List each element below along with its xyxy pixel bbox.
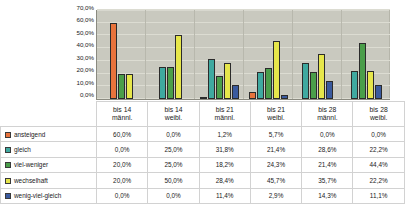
y-axis-tick: 40,0% <box>76 42 94 48</box>
legend-cell: viel-weniger <box>1 157 97 172</box>
table-value-cell: 28,6% <box>302 142 353 157</box>
legend-swatch-icon <box>5 132 11 138</box>
category-header-cell: bis 14weibl. <box>148 102 199 127</box>
legend-label: gleich <box>14 146 31 153</box>
table-value-cell: 11,4% <box>199 188 250 203</box>
bar-group <box>97 10 146 99</box>
table-header-row: bis 14männl.bis 14weibl.bis 21männl.bis … <box>1 102 405 127</box>
legend-swatch-icon <box>5 193 11 199</box>
table-row: viel-weniger20,0%25,0%18,2%24,3%21,4%44,… <box>1 157 405 172</box>
table-value-cell: 1,2% <box>199 127 250 142</box>
table-value-cell: 0,0% <box>97 188 148 203</box>
legend-cell: wechselhaft <box>1 173 97 188</box>
bar <box>232 85 239 99</box>
category-header-cell: bis 14männl. <box>97 102 148 127</box>
table-value-cell: 60,0% <box>97 127 148 142</box>
table-row: gleich0,0%25,0%31,8%21,4%28,6%22,2% <box>1 142 405 157</box>
bar <box>351 71 358 99</box>
table-value-cell: 5,7% <box>250 127 301 142</box>
plot-area <box>96 10 390 100</box>
table-row: ansteigend60,0%0,0%1,2%5,7%0,0%0,0% <box>1 127 405 142</box>
bar <box>359 43 366 99</box>
table-value-cell: 22,2% <box>353 173 404 188</box>
table-value-cell: 50,0% <box>148 173 199 188</box>
bar-group <box>146 10 195 99</box>
table-value-cell: 44,4% <box>353 157 404 172</box>
y-axis-tick: 60,0% <box>76 17 94 23</box>
bar-chart: 70,0%60,0%50,0%40,0%30,0%20,0%10,0%0,0% <box>0 0 404 108</box>
table-value-cell: 0,0% <box>148 127 199 142</box>
table-value-cell: 45,7% <box>250 173 301 188</box>
bar <box>224 63 231 99</box>
bar <box>200 97 207 99</box>
bar-group <box>244 10 293 99</box>
table-value-cell: 25,0% <box>148 142 199 157</box>
bar <box>302 63 309 99</box>
data-table-body: bis 14männl.bis 14weibl.bis 21männl.bis … <box>1 102 405 204</box>
y-axis-tick: 30,0% <box>76 55 94 61</box>
y-axis-tick: 20,0% <box>76 67 94 73</box>
table-value-cell: 0,0% <box>353 127 404 142</box>
y-axis-tick: 50,0% <box>76 30 94 36</box>
bar-group <box>293 10 342 99</box>
y-axis-tick: 10,0% <box>76 80 94 86</box>
category-header-cell: bis 28weibl. <box>353 102 404 127</box>
table-value-cell: 28,4% <box>199 173 250 188</box>
legend-swatch-icon <box>5 147 11 153</box>
bar <box>208 59 215 99</box>
table-value-cell: 21,4% <box>250 142 301 157</box>
legend-cell: gleich <box>1 142 97 157</box>
bar-group <box>342 10 390 99</box>
bar <box>110 23 117 99</box>
table-value-cell: 35,7% <box>302 173 353 188</box>
bar <box>273 41 280 99</box>
bar <box>249 92 256 99</box>
table-value-cell: 18,2% <box>199 157 250 172</box>
y-axis-labels: 70,0%60,0%50,0%40,0%30,0%20,0%10,0%0,0% <box>54 8 94 101</box>
table-row: wechselhaft20,0%50,0%28,4%45,7%35,7%22,2… <box>1 173 405 188</box>
table-value-cell: 20,0% <box>97 157 148 172</box>
bar <box>159 67 166 99</box>
y-axis-tick: 0,0% <box>80 92 94 98</box>
bar-group <box>195 10 244 99</box>
bar <box>175 35 182 99</box>
table-value-cell: 14,3% <box>302 188 353 203</box>
table-value-cell: 0,0% <box>97 142 148 157</box>
table-value-cell: 0,0% <box>148 188 199 203</box>
table-value-cell: 25,0% <box>148 157 199 172</box>
category-header-cell: bis 28männl. <box>302 102 353 127</box>
legend-cell: wenig-viel-gleich <box>1 188 97 203</box>
y-axis-tick: 70,0% <box>76 5 94 11</box>
bar <box>126 74 133 99</box>
bar <box>216 76 223 99</box>
category-header-cell: bis 21männl. <box>199 102 250 127</box>
data-table-wrapper: bis 14männl.bis 14weibl.bis 21männl.bis … <box>0 101 404 224</box>
table-row: wenig-viel-gleich0,0%0,0%11,4%2,9%14,3%1… <box>1 188 405 203</box>
table-value-cell: 31,8% <box>199 142 250 157</box>
bar-groups <box>97 10 390 99</box>
data-table: bis 14männl.bis 14weibl.bis 21männl.bis … <box>0 101 405 204</box>
table-value-cell: 22,2% <box>353 142 404 157</box>
table-value-cell: 11,1% <box>353 188 404 203</box>
table-value-cell: 2,9% <box>250 188 301 203</box>
bar <box>118 74 125 99</box>
legend-cell: ansteigend <box>1 127 97 142</box>
table-value-cell: 21,4% <box>302 157 353 172</box>
legend-label: ansteigend <box>14 131 45 138</box>
bar <box>281 95 288 99</box>
bar <box>326 81 333 99</box>
bar <box>318 54 325 99</box>
bar <box>375 85 382 99</box>
table-corner-cell <box>1 102 97 127</box>
bar <box>367 71 374 99</box>
legend-swatch-icon <box>5 178 11 184</box>
legend-swatch-icon <box>5 162 11 168</box>
table-value-cell: 20,0% <box>97 173 148 188</box>
category-header-cell: bis 21weibl. <box>250 102 301 127</box>
table-value-cell: 24,3% <box>250 157 301 172</box>
bar <box>265 68 272 99</box>
bar <box>167 67 174 99</box>
bar <box>257 72 264 99</box>
table-value-cell: 0,0% <box>302 127 353 142</box>
